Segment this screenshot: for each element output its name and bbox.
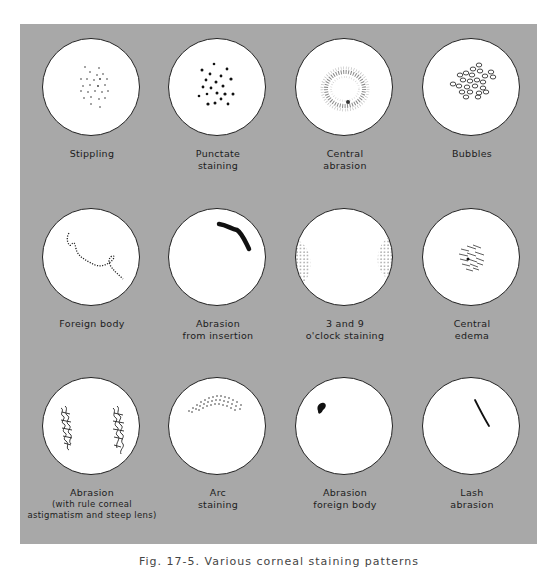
label-central-edema: Central edema [402, 318, 542, 342]
edema-hatching-icon [423, 209, 520, 306]
bilateral-abrasion-icon [43, 378, 140, 475]
label-abrasion-from-insertion: Abrasion from insertion [148, 318, 288, 342]
label-abrasion-with-rule: Abrasion (with rule corneal astigmatism … [22, 487, 162, 521]
label-punctate-staining: Punctate staining [148, 148, 288, 172]
label-line: Arc [148, 487, 288, 499]
foreign-body-track-icon [43, 209, 140, 306]
foreign-body-blob-icon [296, 378, 393, 475]
label-line: Central [402, 318, 542, 330]
label-bubbles: Bubbles [402, 148, 542, 160]
punctate-dots-icon [169, 39, 266, 136]
cornea-diagram-stippling [42, 38, 140, 136]
cornea-diagram-lash-abrasion [422, 377, 520, 475]
label-line: staining [148, 160, 288, 172]
label-line: astigmatism and steep lens) [22, 510, 162, 521]
label-line: Abrasion [275, 487, 415, 499]
label-central-abrasion: Central abrasion [275, 148, 415, 172]
label-line: Central [275, 148, 415, 160]
label-line: abrasion [402, 499, 542, 511]
cornea-diagram-arc-staining [168, 377, 266, 475]
label-line: foreign body [275, 499, 415, 511]
label-line: abrasion [275, 160, 415, 172]
label-line: (with rule corneal [22, 499, 162, 510]
cornea-diagram-abrasion-insertion [168, 208, 266, 306]
label-line: Abrasion [22, 487, 162, 499]
stippling-dots-icon [43, 39, 140, 136]
peripheral-staining-icon [296, 209, 393, 306]
label-line: from insertion [148, 330, 288, 342]
insertion-abrasion-mark-icon [169, 209, 266, 306]
label-arc-staining: Arc staining [148, 487, 288, 511]
central-abrasion-ring-icon [296, 39, 393, 136]
label-line: Stippling [22, 148, 162, 160]
label-line: Lash [402, 487, 542, 499]
cornea-diagram-punctate [168, 38, 266, 136]
label-line: 3 and 9 [275, 318, 415, 330]
cornea-diagram-central-edema [422, 208, 520, 306]
figure-caption: Fig. 17-5. Various corneal staining patt… [0, 555, 558, 568]
label-line: Abrasion [148, 318, 288, 330]
cornea-diagram-abrasion-astigmatism [42, 377, 140, 475]
cornea-diagram-abrasion-foreign-body [295, 377, 393, 475]
cornea-diagram-central-abrasion [295, 38, 393, 136]
cornea-diagram-bubbles [422, 38, 520, 136]
label-foreign-body: Foreign body [22, 318, 162, 330]
label-lash-abrasion: Lash abrasion [402, 487, 542, 511]
arc-dots-icon [169, 378, 266, 475]
cornea-diagram-3-9-staining [295, 208, 393, 306]
figure-panel: Stippling Punctate staining [20, 24, 537, 544]
label-line: o'clock staining [275, 330, 415, 342]
bubbles-icon [423, 39, 520, 136]
label-abrasion-foreign-body: Abrasion foreign body [275, 487, 415, 511]
label-line: edema [402, 330, 542, 342]
label-line: Punctate [148, 148, 288, 160]
label-3-and-9-oclock-staining: 3 and 9 o'clock staining [275, 318, 415, 342]
lash-mark-icon [423, 378, 520, 475]
label-line: Bubbles [402, 148, 542, 160]
label-line: staining [148, 499, 288, 511]
cornea-diagram-foreign-body [42, 208, 140, 306]
label-line: Foreign body [22, 318, 162, 330]
label-stippling: Stippling [22, 148, 162, 160]
